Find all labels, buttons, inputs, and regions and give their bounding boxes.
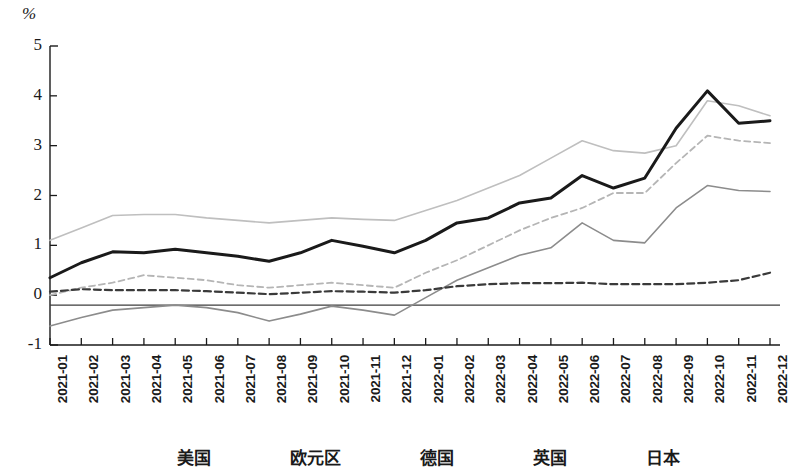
plot-area [0, 0, 804, 475]
chart-legend: 美国欧元区德国英国日本 [0, 441, 804, 471]
legend-label: 英国 [533, 444, 567, 469]
legend-label: 日本 [646, 444, 680, 469]
legend-label: 欧元区 [290, 444, 341, 469]
legend-item[interactable]: 欧元区 [237, 444, 341, 469]
series-line-3 [50, 91, 770, 278]
legend-label: 美国 [177, 444, 211, 469]
legend-label: 德国 [420, 444, 454, 469]
legend-item[interactable]: 英国 [480, 444, 567, 469]
series-line-0 [50, 101, 770, 241]
legend-item[interactable]: 美国 [124, 444, 211, 469]
legend-item[interactable]: 日本 [593, 444, 680, 469]
inflation-line-chart: % 543210-1 2021-012021-022021-032021-042… [0, 0, 804, 475]
legend-item[interactable]: 德国 [367, 444, 454, 469]
